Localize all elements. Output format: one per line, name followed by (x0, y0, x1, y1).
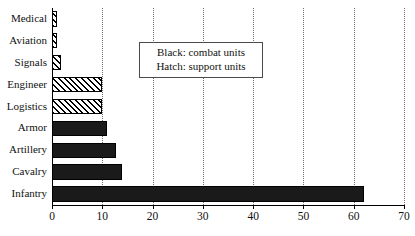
bar-chart: MedicalAviationSignalsEngineerLogisticsA… (0, 0, 415, 236)
x-tick-mark-40 (253, 205, 254, 209)
plot-area (52, 8, 404, 205)
category-label-infantry: Infantry (12, 183, 47, 205)
bar-infantry (52, 186, 364, 201)
gridline-70 (404, 8, 405, 205)
x-tick-label-50: 50 (298, 210, 310, 222)
bar-signals (52, 55, 61, 70)
x-tick-label-70: 70 (398, 210, 410, 222)
bar-engineer (52, 77, 102, 92)
x-tick-mark-10 (102, 205, 103, 209)
legend-entry-combat: Black: combat units (146, 46, 256, 60)
bar-row (52, 96, 404, 118)
legend-entry-support: Hatch: support units (146, 60, 256, 74)
x-tick-label-0: 0 (49, 210, 55, 222)
y-axis-line (52, 8, 53, 205)
x-tick-label-20: 20 (147, 210, 159, 222)
bar-row (52, 183, 404, 205)
bar-armor (52, 121, 107, 136)
category-label-aviation: Aviation (9, 30, 47, 52)
bar-logistics (52, 99, 102, 114)
x-tick-mark-50 (303, 205, 304, 209)
bar-row (52, 139, 404, 161)
x-tick-mark-0 (52, 205, 53, 209)
x-tick-mark-70 (404, 205, 405, 209)
category-label-artillery: Artillery (9, 139, 47, 161)
category-label-armor: Armor (18, 117, 47, 139)
bar-artillery (52, 143, 116, 158)
x-tick-label-10: 10 (97, 210, 109, 222)
x-axis-tick-labels: 010203040506070 (0, 207, 415, 229)
y-axis-category-labels: MedicalAviationSignalsEngineerLogisticsA… (0, 8, 47, 205)
bar-cavalry (52, 164, 122, 179)
x-tick-mark-20 (153, 205, 154, 209)
category-label-cavalry: Cavalry (12, 161, 47, 183)
x-tick-mark-30 (203, 205, 204, 209)
bar-row (52, 8, 404, 30)
x-tick-label-40: 40 (247, 210, 259, 222)
x-tick-mark-60 (354, 205, 355, 209)
x-axis-line (52, 205, 405, 206)
bar-row (52, 117, 404, 139)
category-label-medical: Medical (11, 8, 47, 30)
category-label-signals: Signals (15, 52, 47, 74)
x-tick-label-60: 60 (348, 210, 360, 222)
x-tick-label-30: 30 (197, 210, 209, 222)
category-label-engineer: Engineer (7, 74, 47, 96)
bar-row (52, 161, 404, 183)
category-label-logistics: Logistics (7, 96, 47, 118)
legend-box: Black: combat units Hatch: support units (139, 42, 263, 78)
